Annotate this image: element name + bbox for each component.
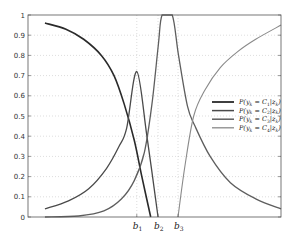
legend-label-c4: P(yk = C4|zk) <box>238 124 281 133</box>
legend: P(yk = C1|zk)P(yk = C2|zk)P(yk = C3|zk)P… <box>212 98 281 132</box>
series-line-c1 <box>45 23 151 217</box>
b-marker-label: b2 <box>154 221 164 232</box>
y-tick-label: 0.3 <box>14 153 25 161</box>
y-tick-label: 0.9 <box>14 32 25 40</box>
legend-label-c1: P(yk = C1|zk) <box>238 98 281 107</box>
series-line-c2 <box>45 72 158 217</box>
y-tick-label: 0.2 <box>14 173 25 181</box>
y-tick-label: 0.6 <box>14 92 26 100</box>
y-tick-label: 1 <box>21 12 25 20</box>
y-tick-label: 0.8 <box>14 52 25 60</box>
legend-label-c3: P(yk = C3|zk) <box>238 115 281 124</box>
legend-label-c2: P(yk = C2|zk) <box>238 107 281 116</box>
y-tick-label: 0.4 <box>14 133 26 141</box>
y-tick-label: 0.5 <box>14 113 25 121</box>
b-marker-label: b1 <box>133 221 143 232</box>
y-tick-label: 0 <box>21 214 25 222</box>
probability-chart: 00.10.20.30.40.50.60.70.80.91 b1b2b3 P(y… <box>0 0 294 241</box>
y-tick-label: 0.1 <box>14 193 25 201</box>
b-marker-label: b3 <box>174 221 184 232</box>
y-tick-label: 0.7 <box>14 72 25 80</box>
